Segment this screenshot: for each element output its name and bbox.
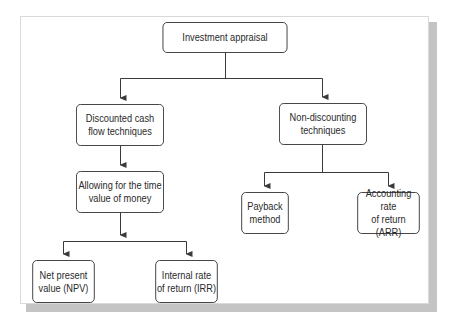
node-investment-appraisal: Investment appraisal [163,22,288,53]
node-npv: Net present value (NPV) [32,260,94,303]
node-arr: Accounting rate of return (ARR) [357,192,419,234]
node-time-value-of-money: Allowing for the time value of money [76,171,164,213]
node-non-discounting: Non-discounting techniques [279,103,367,145]
node-discounted-cash-flow: Discounted cash flow techniques [76,104,164,146]
node-payback: Payback method [241,192,289,234]
node-irr: Internal rate of return (IRR) [155,260,217,303]
